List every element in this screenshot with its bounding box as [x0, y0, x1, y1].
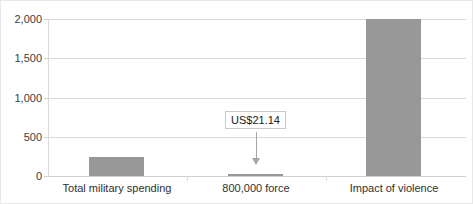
y-axis-label-500: 500: [4, 132, 42, 143]
bar-800000-force: [228, 174, 283, 176]
y-tick-500: [44, 137, 48, 138]
bar-total-military-spending: [89, 157, 144, 176]
x-axis-label-impact-of-violence: Impact of violence: [350, 182, 439, 194]
annotation-arrow-stem: [256, 132, 257, 159]
bar-chart: 2,000 1,500 1,000 500 0 Total military s…: [0, 0, 473, 204]
gridline-0: [48, 176, 466, 177]
bar-impact-of-violence: [366, 19, 421, 176]
y-axis-label-1000: 1,000: [4, 93, 42, 104]
x-axis-separator-1: [187, 176, 188, 181]
plot-area: [48, 19, 466, 176]
x-axis-separator-2: [326, 176, 327, 181]
y-tick-1500: [44, 58, 48, 59]
x-axis-label-800000-force: 800,000 force: [222, 182, 289, 194]
y-axis-label-1500: 1,500: [4, 53, 42, 64]
y-axis-labels: 2,000 1,500 1,000 500 0: [1, 1, 42, 204]
y-axis-line: [48, 19, 49, 176]
y-tick-1000: [44, 98, 48, 99]
y-axis-label-2000: 2,000: [4, 14, 42, 25]
x-axis-label-total-military-spending: Total military spending: [63, 182, 172, 194]
annotation-arrow-head-icon: [252, 158, 260, 165]
y-axis-label-0: 0: [4, 171, 42, 182]
annotation-callout-us21-14: US$21.14: [225, 111, 286, 129]
y-tick-2000: [44, 19, 48, 20]
y-tick-0: [44, 176, 48, 177]
